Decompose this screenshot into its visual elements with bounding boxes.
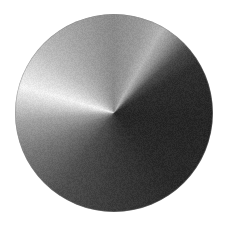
image-canvas: A circular disc filled with a smooth ang…	[0, 0, 226, 228]
conic-gradient-surface	[15, 14, 213, 212]
gradient-disc	[15, 14, 213, 212]
